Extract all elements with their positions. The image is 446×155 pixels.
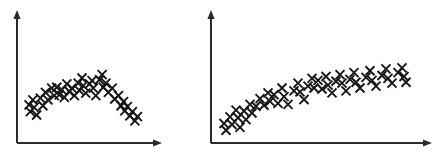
x-axis-arrowhead-right [423,139,432,146]
scatter-panel-left [0,0,223,155]
x-axis-arrowhead-left [153,139,162,146]
data-points-left [25,70,142,125]
data-point-marker [388,79,397,88]
data-point-marker [278,84,287,93]
data-point-marker [356,84,365,93]
y-axis-arrowhead-right [207,10,214,19]
figure-canvas [0,0,446,155]
data-point-marker [91,91,100,100]
data-points-right [220,63,411,134]
scatter-panel-right [200,0,446,155]
data-point-marker [236,123,245,132]
scatter-plot-left [0,0,223,155]
data-point-marker [133,112,142,121]
axes-left [13,10,162,147]
data-point-marker [372,82,381,91]
data-point-marker [398,63,407,72]
data-point-marker [89,84,98,93]
scatter-plot-right [200,0,446,155]
y-axis-arrowhead-left [13,10,20,19]
